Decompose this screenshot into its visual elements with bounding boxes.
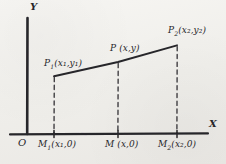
foot-label-m: M (x,0) (105, 140, 138, 149)
x-axis-line (10, 133, 208, 134)
foot-label-m-main: M (105, 139, 114, 149)
coordinate-geometry-figure: Y X O P1(x₁,y₁) P (x,y) P2(x₂,y₂) M1(x₁,… (0, 0, 226, 164)
y-axis-label: Y (30, 2, 37, 12)
point-label-p1: P1(x₁,y₁) (44, 59, 82, 70)
foot-label-m1-main: M (38, 139, 47, 149)
foot-label-m1: M1(x₁,0) (38, 140, 76, 151)
point-label-p2: P2(x₂,y₂) (168, 26, 206, 37)
foot-label-m-coords: (x,0) (117, 139, 138, 149)
origin-label: O (18, 138, 26, 148)
foot-label-m2: M2(x₂,0) (158, 140, 196, 151)
point-label-p: P (x,y) (110, 44, 140, 53)
point-label-p-main: P (110, 43, 116, 53)
foot-label-m2-coords: (x₂,0) (171, 139, 196, 149)
point-label-p1-coords: (x₁,y₁) (54, 58, 82, 68)
point-label-p2-coords: (x₂,y₂) (178, 25, 206, 35)
foot-label-m1-coords: (x₁,0) (51, 139, 76, 149)
foot-label-m2-main: M (158, 139, 167, 149)
x-axis-label: X (209, 119, 217, 129)
point-label-p-coords: (x,y) (119, 43, 140, 53)
